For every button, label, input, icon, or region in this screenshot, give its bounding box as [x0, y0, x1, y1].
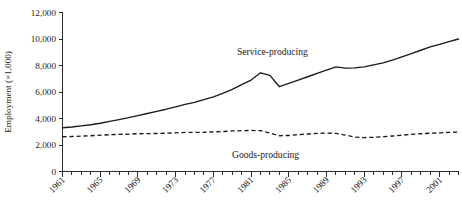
y-axis-ticks	[59, 13, 63, 172]
x-tick-label: 1997	[386, 175, 406, 195]
x-tick-label: 1973	[160, 175, 180, 195]
x-tick-label: 1989	[311, 175, 331, 195]
series-line-goods-producing	[63, 130, 459, 137]
y-tick-label: 6,000	[35, 87, 56, 97]
series-label-goods-producing: Goods-producing	[232, 149, 299, 160]
x-tick-label: 1965	[85, 175, 105, 195]
series-label-service-producing: Service-producing	[237, 46, 308, 57]
x-tick-label: 1977	[198, 175, 218, 195]
x-tick-label: 1993	[349, 175, 369, 195]
x-tick-label: 1981	[235, 175, 255, 195]
y-axis-tick-labels: 02,0004,0006,0008,00010,00012,000	[31, 8, 57, 177]
x-tick-label: 2001	[424, 175, 444, 195]
x-tick-label: 1985	[273, 175, 293, 195]
x-tick-label: 1961	[47, 175, 67, 195]
y-tick-label: 8,000	[35, 61, 56, 71]
x-axis-tick-labels: 1961196519691973197719811985198919931997…	[47, 175, 444, 195]
y-tick-label: 10,000	[31, 34, 57, 44]
employment-line-chart: Employment (×1,000) 02,0004,0006,0008,00…	[0, 0, 462, 209]
y-tick-label: 4,000	[35, 114, 56, 124]
y-axis-title: Employment (×1,000)	[3, 51, 13, 133]
y-tick-label: 0	[51, 167, 56, 177]
x-tick-label: 1969	[122, 175, 142, 195]
y-tick-label: 12,000	[31, 8, 57, 18]
chart-plot-area: Employment (×1,000) 02,0004,0006,0008,00…	[0, 0, 462, 209]
y-tick-label: 2,000	[35, 140, 56, 150]
